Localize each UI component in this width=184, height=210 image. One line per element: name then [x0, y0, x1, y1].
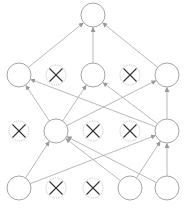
dropped-neuron — [83, 121, 103, 141]
dropped-neuron — [9, 121, 29, 141]
active-neuron — [81, 63, 105, 87]
connection-edge — [26, 85, 49, 121]
dropout-network-diagram — [0, 0, 184, 210]
active-neuron — [155, 63, 179, 87]
dropped-neuron — [46, 65, 66, 85]
edges-group — [26, 23, 167, 184]
connection-edge — [28, 23, 83, 68]
dropped-neuron — [120, 65, 140, 85]
active-neuron — [118, 176, 142, 200]
active-neuron — [7, 63, 31, 87]
connection-edge — [137, 141, 161, 177]
active-neuron — [44, 119, 68, 143]
dropped-neuron — [83, 178, 103, 198]
connection-edge — [67, 81, 156, 126]
dropped-neuron — [120, 121, 140, 141]
connection-edge — [63, 85, 86, 121]
connection-edge — [103, 23, 158, 68]
active-neuron — [81, 3, 105, 27]
active-neuron — [155, 176, 179, 200]
active-neuron — [7, 176, 31, 200]
connection-edge — [67, 137, 156, 183]
connection-edge — [26, 141, 50, 177]
active-neuron — [155, 119, 179, 143]
dropped-neuron — [46, 178, 66, 198]
